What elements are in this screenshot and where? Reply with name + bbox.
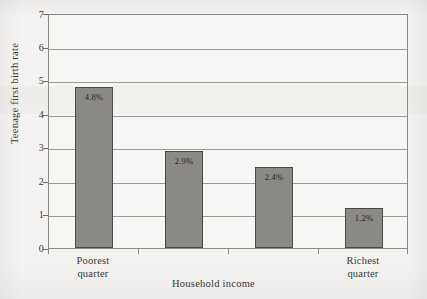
bar-second-quarter[interactable]: 2.9% [165, 151, 203, 248]
bar-value-label: 2.9% [166, 157, 202, 166]
x-category-label-poorest: Poorest quarter [38, 254, 148, 280]
bar-poorest-quarter[interactable]: 4.8% [75, 87, 113, 248]
y-tick-label: 5 [24, 76, 44, 86]
bar-value-label: 4.8% [76, 93, 112, 102]
x-category-label-richest: Richest quarter [308, 254, 418, 280]
y-tick-label: 7 [24, 10, 44, 20]
bar-slot: 2.9% [139, 15, 229, 248]
x-tick-mark [228, 249, 229, 254]
plot-area: 4.8% 2.9% 2.4% 1.2% [48, 14, 408, 249]
y-tick-label: 4 [24, 110, 44, 120]
y-tick-label: 6 [24, 43, 44, 53]
bar-slot: 1.2% [319, 15, 409, 248]
y-tick-label: 1 [24, 210, 44, 220]
x-category-line1: Richest [347, 255, 380, 266]
x-axis-title: Household income [0, 278, 427, 289]
bar-slot: 4.8% [49, 15, 139, 248]
y-tick-label: 2 [24, 177, 44, 187]
x-category-line1: Poorest [77, 255, 110, 266]
bar-chart-figure: Teenage first birth rate 7 6 5 4 3 2 1 0 [0, 0, 427, 299]
bar-slot: 2.4% [229, 15, 319, 248]
bar-value-label: 2.4% [256, 173, 292, 182]
bar-richest-quarter[interactable]: 1.2% [345, 208, 383, 248]
bar-value-label: 1.2% [346, 214, 382, 223]
bars-layer: 4.8% 2.9% 2.4% 1.2% [49, 15, 407, 248]
y-tick-label: 0 [24, 244, 44, 254]
bar-third-quarter[interactable]: 2.4% [255, 167, 293, 248]
y-tick-label: 3 [24, 143, 44, 153]
y-axis-title: Teenage first birth rate [9, 19, 20, 169]
